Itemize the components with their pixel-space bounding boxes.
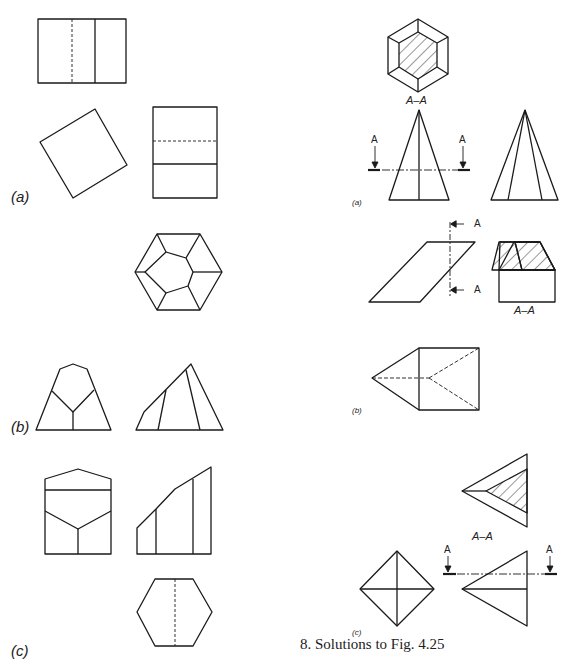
left-c-hexagon-top-view — [137, 579, 212, 646]
right-c-cut-letter-left: A — [444, 544, 451, 555]
right-a-section-label: A–A — [406, 94, 427, 106]
right-c-cut-letter-right: A — [546, 544, 553, 555]
right-c-square-diamond — [360, 551, 434, 626]
left-part-c-label: (c) — [11, 642, 29, 659]
left-a-rotated-square — [40, 109, 127, 198]
left-a-side-view — [153, 107, 217, 198]
left-part-a-label: (a) — [11, 188, 29, 205]
right-part-b-label: (b) — [352, 406, 362, 415]
right-c-section-triangle — [462, 454, 527, 527]
right-c-cut-line — [443, 556, 557, 574]
right-b-cut-letter-top: A — [474, 218, 481, 229]
left-c-front-view — [45, 469, 111, 554]
left-a-front-view — [38, 19, 126, 83]
right-c-section-label: A–A — [472, 530, 493, 542]
right-a-pyramid-side — [491, 110, 558, 200]
right-b-cut-letter-bottom: A — [474, 284, 481, 295]
left-part-b-label: (b) — [11, 418, 29, 435]
right-c-triangle-front — [462, 551, 527, 626]
technical-drawing-sheet — [0, 0, 565, 662]
left-b-side-view — [136, 364, 223, 430]
right-b-section-label: A–A — [514, 304, 535, 316]
right-b-parallelogram — [369, 221, 475, 302]
figure-caption: 8. Solutions to Fig. 4.25 — [300, 636, 445, 653]
right-b-section-view — [492, 242, 555, 302]
right-a-cut-letter-right: A — [459, 134, 466, 145]
right-b-front-view — [372, 348, 479, 410]
right-part-a-label: (a) — [352, 198, 362, 207]
left-b-hexagon-top-view — [135, 234, 222, 310]
left-b-front-view — [36, 364, 111, 430]
right-a-section-hexagon — [388, 19, 448, 92]
left-c-side-view — [137, 467, 211, 554]
right-a-cut-letter-left: A — [371, 134, 378, 145]
right-a-cone-front — [389, 110, 449, 200]
